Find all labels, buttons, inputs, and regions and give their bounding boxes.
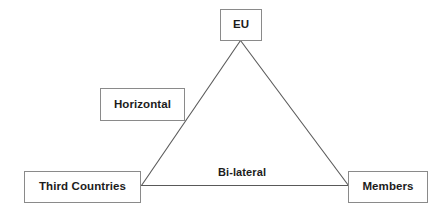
node-third-countries-label: Third Countries <box>39 181 126 193</box>
node-members[interactable]: Members <box>348 171 428 203</box>
node-horizontal-label: Horizontal <box>114 99 171 111</box>
node-eu-label: EU <box>233 19 249 31</box>
node-horizontal[interactable]: Horizontal <box>100 88 185 121</box>
diagram-canvas: EU Horizontal Third Countries Members Bi… <box>0 0 448 214</box>
node-third-countries[interactable]: Third Countries <box>24 171 141 203</box>
node-members-label: Members <box>362 181 413 193</box>
edge-label-bilateral: Bi-lateral <box>216 162 268 180</box>
node-eu[interactable]: EU <box>220 9 262 41</box>
edge-label-bilateral-text: Bi-lateral <box>218 166 266 178</box>
